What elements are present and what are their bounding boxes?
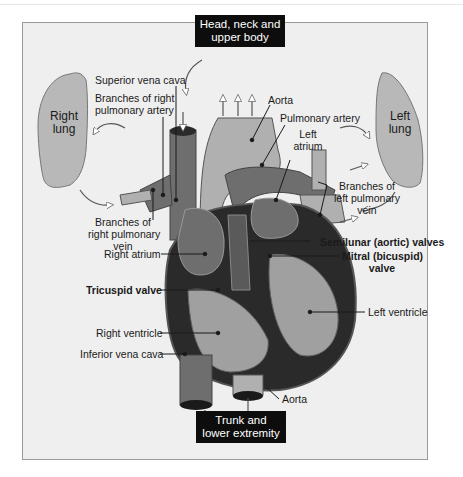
right-atrium-shape [178, 208, 224, 275]
label-line: pulmonary artery [95, 104, 174, 116]
label-aorta-top: Aorta [268, 94, 293, 106]
label-line: Branches of right [95, 92, 174, 104]
label-branches-right-pulmonary-vein: Branches of right pulmonary vein [88, 216, 158, 252]
label-inferior-vena-cava: Inferior vena cava [80, 348, 163, 360]
label-branches-left-pulmonary-vein: Branches of left pulmonary vein [334, 180, 400, 216]
label-line: vein [334, 204, 400, 216]
label-line: right pulmonary [88, 228, 158, 240]
label-superior-vena-cava: Superior vena cava [95, 74, 185, 86]
right-lung-label: Right lung [44, 110, 84, 136]
inferior-vena-cava-shape [180, 355, 212, 405]
label-right-atrium: Right atrium [104, 248, 161, 260]
box-text: upper body [195, 31, 285, 44]
label-right-ventricle: Right ventricle [96, 327, 163, 339]
left-lung-label: Left lung [383, 110, 417, 136]
label-branches-right-pulmonary-artery: Branches of right pulmonary artery [95, 92, 174, 116]
label-pulmonary-artery: Pulmonary artery [280, 112, 360, 124]
destination-box-head-neck: Head, neck and upper body [195, 15, 285, 47]
destination-box-trunk: Trunk and lower extremity [196, 411, 286, 443]
label-line: valve [342, 262, 422, 274]
lung-text: lung [383, 123, 417, 136]
label-line: Mitral (bicuspid) [342, 250, 422, 262]
label-semilunar-valves: Semilunar (aortic) valves [320, 236, 444, 248]
label-left-atrium: Left atrium [290, 128, 326, 152]
label-line: Branches of [334, 180, 400, 192]
label-line: atrium [290, 140, 326, 152]
label-line: Branches of [88, 216, 158, 228]
label-mitral-valve: Mitral (bicuspid) valve [342, 250, 422, 274]
label-line: Left [290, 128, 326, 140]
label-line: left pulmonary [334, 192, 400, 204]
lung-text: lung [44, 123, 84, 136]
label-aorta-bottom: Aorta [282, 393, 307, 405]
box-text: Head, neck and [195, 18, 285, 31]
label-tricuspid-valve: Tricuspid valve [86, 284, 162, 296]
box-text: Trunk and [196, 414, 286, 427]
label-left-ventricle: Left ventricle [368, 306, 428, 318]
box-text: lower extremity [196, 427, 286, 440]
